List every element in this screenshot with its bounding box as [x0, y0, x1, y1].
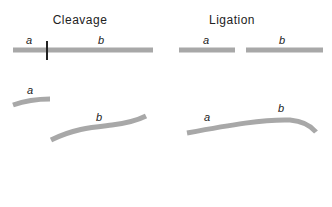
- ligated-label-a: a: [204, 111, 210, 123]
- ligation-label-b: b: [279, 34, 285, 46]
- cleavage-title: Cleavage: [53, 13, 108, 27]
- cleaved-fragment-b-label: b: [96, 111, 102, 123]
- ligated-label-b: b: [278, 102, 284, 114]
- cleaved-fragment-a-label: a: [27, 84, 33, 96]
- ligation-title: Ligation: [209, 13, 255, 27]
- diagram-canvas: Cleavage Ligation a b a b a b a b: [0, 0, 332, 207]
- ligation-label-a: a: [203, 34, 209, 46]
- cleavage-label-b: b: [98, 34, 104, 46]
- cleaved-fragment-a: [13, 99, 50, 105]
- cleavage-label-a: a: [26, 34, 32, 46]
